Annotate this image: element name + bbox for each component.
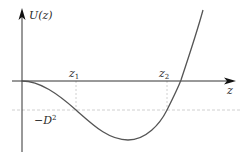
diagram-svg [0, 0, 248, 159]
z1-label: z1 [69, 68, 79, 81]
x-axis-label: z [227, 85, 233, 96]
minus-d-squared-label: −D2 [34, 115, 57, 126]
y-axis-label: U(z) [29, 10, 53, 21]
z2-label: z2 [159, 68, 169, 81]
potential-diagram: U(z) z z1 z2 −D2 [0, 0, 248, 159]
